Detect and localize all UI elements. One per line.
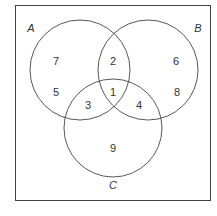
region-value: 7 bbox=[53, 55, 59, 67]
set-b-circle bbox=[98, 20, 198, 120]
region-value: 2 bbox=[110, 55, 116, 67]
region-value: 6 bbox=[173, 55, 179, 67]
region-value: 8 bbox=[174, 86, 180, 98]
region-value: 4 bbox=[136, 99, 142, 111]
set-a-circle bbox=[30, 20, 130, 120]
set-label: A bbox=[26, 22, 34, 34]
set-label: B bbox=[194, 22, 201, 34]
venn-diagram: 752681349 ABC bbox=[0, 0, 217, 216]
set-label: C bbox=[109, 179, 117, 191]
region-value: 3 bbox=[85, 99, 91, 111]
region-value: 9 bbox=[110, 142, 116, 154]
region-value: 5 bbox=[53, 86, 59, 98]
region-value: 1 bbox=[110, 86, 116, 98]
